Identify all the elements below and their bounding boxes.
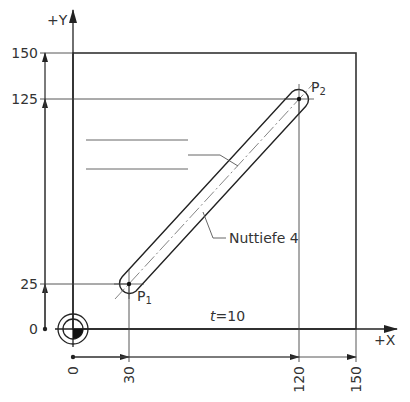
y-tick-150: 150 xyxy=(11,45,38,61)
x-tick-30: 30 xyxy=(121,366,137,384)
y-tick-25: 25 xyxy=(20,276,38,292)
thickness-label: t=10 xyxy=(210,308,245,324)
y-tick-125: 125 xyxy=(11,91,38,107)
leader-line-upper xyxy=(188,155,238,166)
point-p1-label: P1 xyxy=(137,288,152,306)
slot-depth-note: Nuttiefe 4 xyxy=(229,230,299,246)
point-p2-marker xyxy=(297,97,301,101)
technical-drawing: +Y +X 150 125 25 0 0 30 120 150 P1 P2 Nu… xyxy=(0,0,410,402)
y-dim-origin-dot xyxy=(43,327,47,331)
x-dim-origin-dot xyxy=(71,355,75,359)
y-tick-0: 0 xyxy=(29,321,38,337)
x-tick-150: 150 xyxy=(348,366,364,393)
point-p2-label: P2 xyxy=(311,79,326,97)
axis-y-label: +Y xyxy=(47,12,68,28)
point-p1-marker xyxy=(127,282,131,286)
axis-x-label: +X xyxy=(374,332,396,348)
leader-line-note xyxy=(203,212,226,238)
origin-symbol-icon xyxy=(58,314,88,344)
slot xyxy=(114,84,314,299)
y-dimension-chain xyxy=(40,53,299,329)
x-tick-120: 120 xyxy=(291,366,307,393)
x-tick-0: 0 xyxy=(65,366,81,375)
